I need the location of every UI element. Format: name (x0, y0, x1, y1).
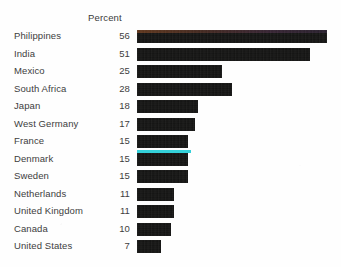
value-label: 11 (90, 205, 130, 216)
bar (137, 240, 161, 253)
bar (137, 170, 188, 183)
value-label: 11 (90, 188, 130, 199)
bar (137, 188, 174, 201)
bar (137, 65, 222, 78)
bar (137, 83, 232, 96)
bar-track (137, 48, 327, 61)
bar-track (137, 135, 327, 148)
value-label: 56 (90, 30, 130, 41)
bar-row: Canada10 (0, 222, 341, 240)
bar-rows: Philippines56India51Mexico25South Africa… (0, 29, 341, 257)
category-label: France (14, 135, 44, 146)
bar-track (137, 100, 327, 113)
bar-track (137, 30, 327, 43)
value-label: 15 (90, 170, 130, 181)
value-label: 7 (90, 240, 130, 251)
bar-track (137, 118, 327, 131)
bar-row: United States7 (0, 239, 341, 257)
bar-row: Denmark15 (0, 152, 341, 170)
value-label: 15 (90, 153, 130, 164)
bar-track (137, 223, 327, 236)
bar (137, 48, 310, 61)
category-label: West Germany (14, 118, 78, 129)
value-label: 15 (90, 135, 130, 146)
bar-row: United Kingdom11 (0, 204, 341, 222)
value-label: 25 (90, 65, 130, 76)
bar (137, 30, 327, 43)
percent-bar-chart: Percent Philippines56India51Mexico25Sout… (0, 0, 341, 267)
value-label: 51 (90, 48, 130, 59)
bar-track (137, 65, 327, 78)
category-label: Netherlands (14, 188, 66, 199)
bar-track (137, 240, 327, 253)
category-label: Canada (14, 223, 48, 234)
bar-track (137, 170, 327, 183)
bar-track (137, 153, 327, 166)
value-label: 18 (90, 100, 130, 111)
bar-track (137, 205, 327, 218)
category-label: Japan (14, 100, 40, 111)
bar-row: France15 (0, 134, 341, 152)
chart-header: Percent (0, 12, 341, 26)
bar (137, 205, 174, 218)
category-label: South Africa (14, 83, 66, 94)
axis-title-percent: Percent (88, 12, 122, 23)
category-label: Sweden (14, 170, 49, 181)
category-label: United States (14, 240, 72, 251)
bar-row: Mexico25 (0, 64, 341, 82)
value-label: 28 (90, 83, 130, 94)
bar (137, 100, 198, 113)
category-label: Mexico (14, 65, 45, 76)
bar-row: Philippines56 (0, 29, 341, 47)
bar-row: West Germany17 (0, 117, 341, 135)
bar-track (137, 188, 327, 201)
bar (137, 118, 195, 131)
category-label: Denmark (14, 153, 53, 164)
bar-row: South Africa28 (0, 82, 341, 100)
category-label: Philippines (14, 30, 61, 41)
bar-row: Japan18 (0, 99, 341, 117)
bar-row: Netherlands11 (0, 187, 341, 205)
bar-row: India51 (0, 47, 341, 65)
bar (137, 223, 171, 236)
category-label: United Kingdom (14, 205, 83, 216)
bar-track (137, 83, 327, 96)
value-label: 10 (90, 223, 130, 234)
bar (137, 153, 188, 166)
value-label: 17 (90, 118, 130, 129)
category-label: India (14, 48, 35, 59)
bar (137, 135, 188, 148)
bar-row: Sweden15 (0, 169, 341, 187)
